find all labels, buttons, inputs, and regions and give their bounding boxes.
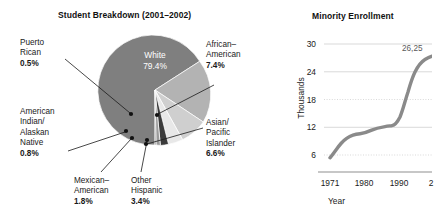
leader-dot-asian-pacific xyxy=(144,142,148,146)
y-axis-title: Thousands xyxy=(296,66,306,130)
pie-callout-puerto-rican: Puerto Rican 0.5% xyxy=(20,38,44,69)
callout-percent: 7.4% xyxy=(206,61,241,71)
callout-percent: 6.6% xyxy=(206,149,235,159)
callout-line-3: Alaskan xyxy=(20,128,55,138)
leader-mexican-american xyxy=(101,139,131,172)
x-tick-label-1990: 1990 xyxy=(382,178,416,188)
callout-line-1: Other xyxy=(131,176,162,186)
pie-callout-asian-pacific-islander: Asian/ Pacific Islander 6.6% xyxy=(206,118,235,160)
leader-american-indian xyxy=(68,132,125,151)
x-tick-label-2000-clipped: 2 xyxy=(414,178,438,188)
callout-line-1: African– xyxy=(206,40,241,50)
leader-dot-mexican-american xyxy=(130,136,134,140)
x-tick-label-1980: 1980 xyxy=(347,178,381,188)
x-axis-title: Year xyxy=(328,196,345,206)
pie-center-label-name: White xyxy=(126,50,184,61)
line-series-minority-enrollment xyxy=(330,56,432,158)
leader-dot-puerto-rican xyxy=(129,112,133,116)
x-tick-label-1971: 1971 xyxy=(313,178,347,188)
pie-callout-american-indian-alaskan-native: American Indian/ Alaskan Native 0.8% xyxy=(20,107,55,159)
callout-line-2: Hispanic xyxy=(131,186,162,196)
student-breakdown-pie-panel: Student Breakdown (2001–2002) xyxy=(0,0,292,221)
callout-line-2: Pacific xyxy=(206,128,235,138)
minority-enrollment-line-panel: Minority Enrollment 30 24 18 12 6 1971 1… xyxy=(292,0,432,221)
callout-line-1: Puerto xyxy=(20,38,44,48)
y-tick-label-30: 30 xyxy=(294,39,316,49)
callout-line-2: American xyxy=(206,50,241,60)
callout-percent: 1.8% xyxy=(74,197,109,207)
leader-dot-other-hispanic xyxy=(145,138,149,142)
callout-line-1: Mexican– xyxy=(74,176,109,186)
leader-dot-american-indian xyxy=(124,129,128,133)
callout-line-2: Rican xyxy=(20,48,44,58)
callout-line-1: American xyxy=(20,107,55,117)
callout-line-2: American xyxy=(74,186,109,196)
pie-callout-african-american: African– American 7.4% xyxy=(206,40,241,71)
callout-percent: 0.5% xyxy=(20,59,44,69)
pie-center-label-value: 79.4% xyxy=(126,61,184,72)
callout-percent: 0.8% xyxy=(20,149,55,159)
y-tick-label-6: 6 xyxy=(294,150,316,160)
pie-callout-other-hispanic: Other Hispanic 3.4% xyxy=(131,176,162,207)
pie-center-label: White 79.4% xyxy=(126,50,184,72)
callout-line-4: Native xyxy=(20,138,55,148)
callout-line-1: Asian/ xyxy=(206,118,235,128)
grid xyxy=(324,44,432,155)
callout-line-3: Islander xyxy=(206,139,235,149)
callout-line-2: Indian/ xyxy=(20,117,55,127)
pie-callout-mexican-american: Mexican– American 1.8% xyxy=(74,176,109,207)
data-point-value-label: 26,25 xyxy=(402,44,423,53)
leader-dot-african-american xyxy=(155,113,159,117)
callout-percent: 3.4% xyxy=(131,197,162,207)
